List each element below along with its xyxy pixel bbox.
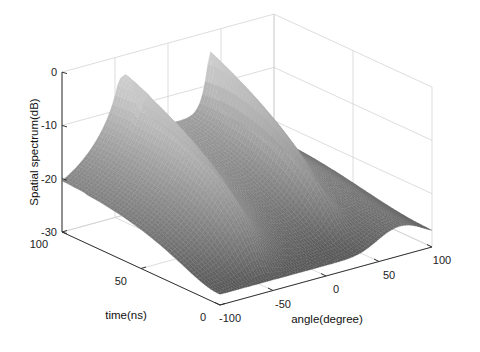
z-axis-label: Spatial spectrum(dB) — [28, 98, 40, 206]
angle-tick-label: 0 — [333, 283, 339, 295]
z-tick-label: 0 — [51, 66, 57, 78]
time-tick-label: 50 — [115, 275, 127, 287]
time-axis-label: time(ns) — [105, 309, 147, 321]
time-tick-label: 100 — [30, 238, 48, 250]
angle-tick-label: 50 — [383, 269, 395, 281]
z-tick-label: -20 — [41, 173, 57, 185]
angle-tick-label: -100 — [219, 312, 241, 324]
z-tick-label: -30 — [41, 226, 57, 238]
z-gridline — [62, 14, 432, 87]
angle-tick-label: -50 — [275, 298, 291, 310]
angle-axis-label: angle(degree) — [291, 313, 363, 325]
angle-tick-label: 100 — [433, 254, 451, 266]
surface-chart: -30-20-100050100-100-50050100 Spatial sp… — [0, 0, 480, 352]
time-tick-label: 0 — [200, 311, 206, 323]
z-tick-label: -10 — [41, 119, 57, 131]
